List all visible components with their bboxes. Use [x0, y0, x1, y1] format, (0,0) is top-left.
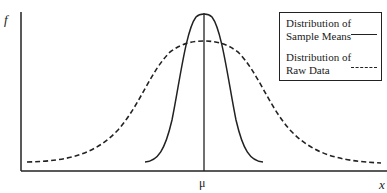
legend-text: Distribution of [286, 17, 351, 30]
mu-tick-label: μ [199, 176, 205, 191]
legend: Distribution of Sample Means Distributio… [279, 12, 382, 81]
legend-item-raw-data: Distribution of Raw Data [286, 51, 351, 77]
x-axis-label: x [379, 177, 385, 193]
legend-text: Raw Data [286, 64, 351, 77]
legend-text: Sample Means [286, 30, 351, 43]
dashed-line-swatch-icon [351, 67, 377, 68]
y-axis-label: f [4, 12, 8, 28]
legend-item-sample-means: Distribution of Sample Means [286, 17, 351, 43]
solid-line-swatch-icon [351, 34, 377, 35]
legend-text: Distribution of [286, 51, 351, 64]
